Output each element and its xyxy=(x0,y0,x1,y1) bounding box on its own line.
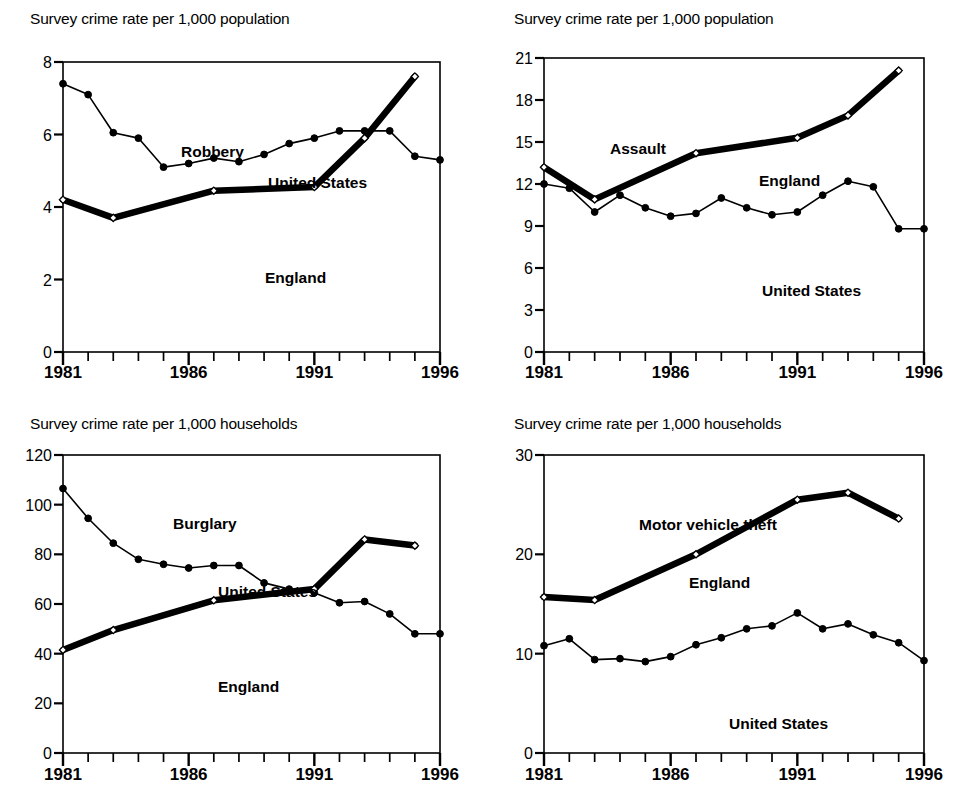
data-point xyxy=(135,556,142,563)
y-tick-label: 9 xyxy=(524,218,533,235)
x-tick-label: 1986 xyxy=(652,765,690,784)
data-point xyxy=(541,642,548,649)
y-tick-label: 20 xyxy=(34,695,52,712)
y-tick-label: 0 xyxy=(524,344,533,361)
panel-burglary: Survey crime rate per 1,000 households 0… xyxy=(0,405,484,811)
data-point xyxy=(693,641,700,648)
data-point xyxy=(541,181,548,188)
series-label-united-states: United States xyxy=(268,174,367,191)
data-point xyxy=(819,625,826,632)
data-point xyxy=(718,634,725,641)
y-tick-label: 30 xyxy=(515,447,533,464)
panel-heading-mvtheft: Motor vehicle theft xyxy=(639,516,777,533)
chart-grid: Survey crime rate per 1,000 population 0… xyxy=(0,0,968,811)
y-tick-label: 6 xyxy=(43,127,52,144)
data-point xyxy=(642,658,649,665)
data-point xyxy=(870,183,877,190)
data-point xyxy=(60,485,67,492)
data-point xyxy=(667,653,674,660)
data-point xyxy=(110,129,117,136)
data-point xyxy=(185,160,192,167)
data-point xyxy=(718,195,725,202)
panel-heading-burglary: Burglary xyxy=(173,515,237,532)
chart-burglary: 0204060801001201981198619911996BurglaryE… xyxy=(0,405,484,811)
data-point xyxy=(743,625,750,632)
y-tick-label: 12 xyxy=(515,176,533,193)
x-tick-label: 1981 xyxy=(44,363,82,382)
data-point xyxy=(794,209,801,216)
series-label-united-states: United States xyxy=(762,282,861,299)
y-tick-label: 18 xyxy=(515,92,533,109)
y-tick-label: 40 xyxy=(34,646,52,663)
x-tick-label: 1996 xyxy=(905,363,943,382)
series-line-united-states xyxy=(63,489,440,634)
data-point xyxy=(185,565,192,572)
x-tick-label: 1981 xyxy=(525,765,563,784)
x-tick-label: 1991 xyxy=(778,363,816,382)
y-tick-label: 0 xyxy=(43,344,52,361)
chart-robbery: 024681981198619911996RobberyEnglandUnite… xyxy=(0,0,484,405)
data-point xyxy=(794,610,801,617)
series-label-united-states: United States xyxy=(729,715,828,732)
data-point xyxy=(743,204,750,211)
y-tick-label: 60 xyxy=(34,596,52,613)
x-tick-label: 1986 xyxy=(652,363,690,382)
data-point xyxy=(591,656,598,663)
x-tick-label: 1981 xyxy=(525,363,563,382)
series-line-united-states xyxy=(544,181,924,229)
data-point xyxy=(85,515,92,522)
data-point xyxy=(286,140,293,147)
data-point xyxy=(135,135,142,142)
y-tick-label: 15 xyxy=(515,134,533,151)
data-point xyxy=(411,153,418,160)
panel-heading-robbery: Robbery xyxy=(181,143,244,160)
data-point xyxy=(769,622,776,629)
y-tick-label: 8 xyxy=(43,54,52,71)
data-point xyxy=(110,540,117,547)
data-point xyxy=(311,135,318,142)
plot-frame xyxy=(63,455,440,753)
y-tick-label: 120 xyxy=(25,447,52,464)
data-point xyxy=(361,598,368,605)
data-point xyxy=(642,204,649,211)
series-label-england: England xyxy=(218,678,279,695)
y-tick-label: 20 xyxy=(515,546,533,563)
data-point xyxy=(769,211,776,218)
data-point xyxy=(386,127,393,134)
data-point xyxy=(336,599,343,606)
x-tick-label: 1986 xyxy=(170,765,208,784)
x-tick-label: 1981 xyxy=(44,765,82,784)
y-tick-label: 6 xyxy=(524,260,533,277)
y-tick-label: 100 xyxy=(25,497,52,514)
x-tick-label: 1991 xyxy=(778,765,816,784)
data-point xyxy=(386,611,393,618)
data-point xyxy=(411,630,418,637)
y-tick-label: 2 xyxy=(43,272,52,289)
data-point xyxy=(617,655,624,662)
data-point xyxy=(895,639,902,646)
data-point xyxy=(336,127,343,134)
series-label-england: England xyxy=(759,172,820,189)
plot-frame xyxy=(63,62,440,352)
data-point xyxy=(85,91,92,98)
panel-mvtheft: Survey crime rate per 1,000 households 0… xyxy=(484,405,968,811)
chart-mvtheft: 01020301981198619911996Motor vehicle the… xyxy=(484,405,968,811)
data-point xyxy=(566,635,573,642)
data-point xyxy=(870,631,877,638)
series-label-england: England xyxy=(265,269,326,286)
data-point xyxy=(667,213,674,220)
data-point xyxy=(895,225,902,232)
series-line-united-states xyxy=(544,613,924,662)
series-label-united-states: United States xyxy=(218,583,317,600)
data-point xyxy=(693,210,700,217)
panel-assault: Survey crime rate per 1,000 population 0… xyxy=(484,0,968,405)
x-tick-label: 1996 xyxy=(421,765,459,784)
data-point xyxy=(437,156,444,163)
series-label-england: England xyxy=(689,574,750,591)
data-point xyxy=(845,178,852,185)
x-tick-label: 1996 xyxy=(905,765,943,784)
data-point xyxy=(437,630,444,637)
data-point xyxy=(845,620,852,627)
y-tick-label: 0 xyxy=(524,745,533,762)
x-tick-label: 1991 xyxy=(295,363,333,382)
